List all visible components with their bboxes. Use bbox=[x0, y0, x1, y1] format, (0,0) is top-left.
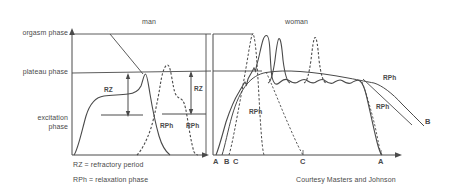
woman-x-axis-arrow bbox=[395, 152, 402, 157]
curve-endpoint-label-B: B bbox=[425, 118, 431, 127]
rz-left-arrow-top bbox=[126, 73, 130, 79]
x-tick-label-woman-B: B bbox=[224, 158, 230, 167]
man-orgasm-diagonal bbox=[110, 34, 143, 74]
rph-label-man-1: RPh bbox=[160, 122, 173, 131]
rph-label-woman-3: RPh bbox=[383, 74, 396, 83]
man-axes bbox=[69, 28, 209, 158]
credit-line: Courtesy Masters and Johnson bbox=[296, 176, 396, 185]
y-axis-label-plateau-phase: plateau phase bbox=[8, 68, 68, 77]
rz-label-left: RZ bbox=[104, 86, 113, 95]
x-tick-label-woman-C1: C bbox=[233, 158, 239, 167]
y-axis-label-orgasm-phase: orgasm phase bbox=[18, 29, 68, 38]
woman-x-ticks bbox=[303, 150, 381, 155]
rz-label-right: RZ bbox=[194, 85, 203, 94]
rz-right-arrow-top bbox=[189, 71, 193, 77]
x-tick-label-woman-A1: A bbox=[213, 158, 219, 167]
rph-label-woman-1: RPh bbox=[249, 108, 262, 117]
rph-label-woman-2: RPh bbox=[376, 103, 389, 112]
panel-title-woman: woman bbox=[285, 18, 308, 27]
woman-rph-slope-to-B bbox=[363, 79, 412, 125]
woman-curve-C bbox=[229, 34, 264, 156]
panel-title-man: man bbox=[142, 18, 156, 27]
sexual-response-cycle-diagram: man woman orgasm phase plateau phase exc… bbox=[0, 0, 453, 195]
man-response-curve-dashed bbox=[137, 65, 198, 155]
legend-rz: RZ = refractory period bbox=[73, 161, 143, 170]
legend-rph: RPh = relaxation phase bbox=[73, 176, 148, 185]
x-tick-label-woman-A2: A bbox=[378, 158, 384, 167]
y-axis-label-excitation-phase: excitation phase bbox=[14, 114, 68, 131]
woman-rph-line-1 bbox=[266, 72, 303, 155]
x-tick-label-woman-C2: C bbox=[300, 158, 306, 167]
woman-orgasm-peak-1 bbox=[268, 38, 290, 83]
rph-label-man-2: RPh bbox=[186, 122, 199, 131]
woman-orgasm-peak-2 bbox=[304, 37, 326, 83]
man-x-axis-arrow bbox=[202, 152, 209, 157]
rz-left-arrow-bottom bbox=[126, 111, 130, 117]
